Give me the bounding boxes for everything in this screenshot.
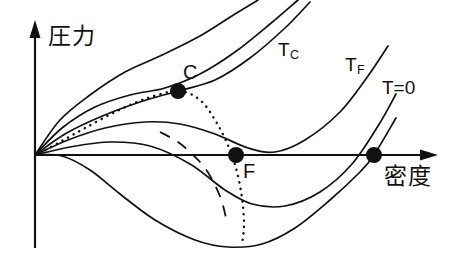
curve-label-tc: TC <box>278 40 299 59</box>
y-axis-arrowhead <box>30 20 41 38</box>
curve-isotherm-4 <box>35 46 388 155</box>
curve-label-tf-subscript: F <box>357 63 365 77</box>
x-axis-arrowhead <box>420 150 438 161</box>
axes-group <box>30 20 439 248</box>
critical-point-label: C <box>183 62 197 82</box>
freezing-point-dot <box>228 147 244 163</box>
critical-point-dot <box>170 83 186 99</box>
curve-label-tc-base: T <box>278 39 290 60</box>
freezing-point-label: F <box>243 161 255 181</box>
curve-label-t-zero: T=0 <box>382 78 415 97</box>
x-axis-label: 密度 <box>384 165 432 188</box>
curve-spinodal-dashed <box>160 132 226 218</box>
curve-label-tc-subscript: C <box>290 48 299 62</box>
curve-label-tf-base: T <box>345 54 357 75</box>
zero-temp-point-dot <box>366 147 382 163</box>
figure-root: 圧力 密度 C F TC TF T=0 <box>0 0 459 265</box>
curve-label-tf: TF <box>345 55 364 74</box>
y-axis-label: 圧力 <box>48 25 96 48</box>
curve-coexistence-curve <box>40 91 244 245</box>
